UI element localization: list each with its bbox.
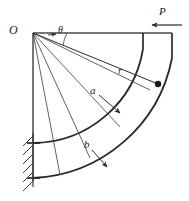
label-radius-r: r xyxy=(118,66,122,76)
fixed-support-hatching xyxy=(23,136,33,191)
angle-theta-arc xyxy=(63,33,67,46)
dim-b-arrow xyxy=(92,150,107,167)
label-angle-theta: θ xyxy=(58,25,63,35)
label-inner-radius-a: a xyxy=(90,85,96,96)
angle-theta-arrow xyxy=(48,34,56,35)
label-outer-radius-b: b xyxy=(84,139,90,150)
inner-arc-radius-a xyxy=(33,49,143,143)
radius-r-line xyxy=(33,33,158,84)
figure-canvas: O P θ r a b xyxy=(0,0,189,201)
label-origin-O: O xyxy=(9,24,18,36)
diagram-svg xyxy=(0,0,189,201)
radial-fan-lines xyxy=(33,33,150,175)
material-point-dot xyxy=(155,81,161,87)
label-force-P: P xyxy=(159,6,166,17)
